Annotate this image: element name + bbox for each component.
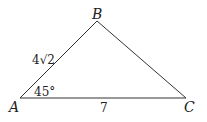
side-ab-length: 4√2 bbox=[32, 53, 55, 67]
angle-a-measure: 45° bbox=[34, 85, 55, 99]
triangle-diagram: B A C 7 45° 4√2 bbox=[0, 0, 207, 122]
vertex-label-c: C bbox=[184, 99, 195, 115]
vertex-label-a: A bbox=[7, 99, 19, 115]
vertex-label-b: B bbox=[91, 6, 102, 22]
side-ac-length: 7 bbox=[100, 101, 108, 115]
